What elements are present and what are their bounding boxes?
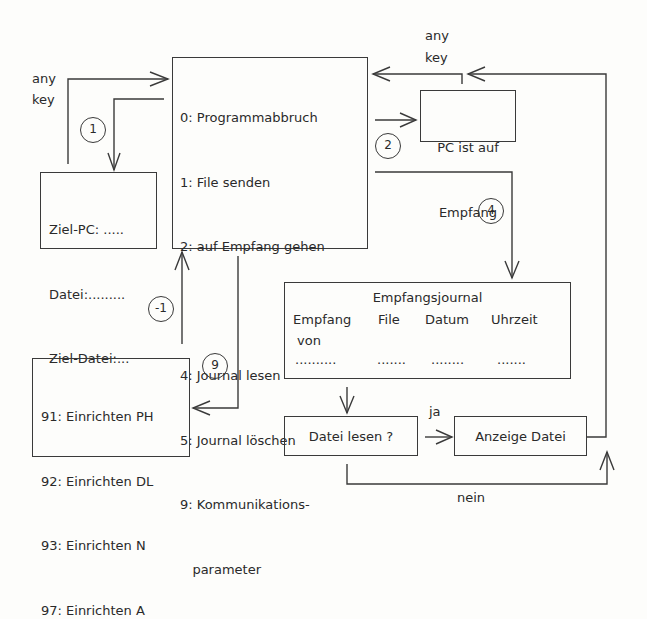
setup-item-a[interactable]: 97: Einrichten A	[41, 600, 154, 619]
any-key-right-label-1: any	[425, 28, 449, 44]
journal-header-von: von	[297, 333, 321, 349]
menu-item-send-file[interactable]: 1: File senden	[180, 172, 325, 194]
step-circle-minus-1: -1	[148, 296, 174, 322]
journal-header-date: Datum	[425, 312, 469, 328]
target-pc-field[interactable]: Ziel-PC: .....	[49, 219, 129, 241]
journal-dots-time: .......	[497, 352, 526, 368]
setup-item-n[interactable]: 93: Einrichten N	[41, 535, 154, 557]
menu-item-comm-params[interactable]: 9: Kommunikations-	[180, 494, 325, 516]
menu-item-receive[interactable]: 2: auf Empfang gehen	[180, 236, 325, 258]
setup-item-dl[interactable]: 92: Einrichten DL	[41, 471, 154, 493]
any-key-right-label-2: key	[425, 50, 448, 66]
setup-menu-list: 91: Einrichten PH 92: Einrichten DL 93: …	[41, 363, 154, 619]
read-file-label: Datei lesen ?	[284, 429, 418, 445]
yes-label: ja	[429, 404, 441, 420]
no-label: nein	[457, 490, 485, 506]
step-circle-1: 1	[80, 117, 106, 143]
journal-title: Empfangsjournal	[284, 290, 571, 306]
receive-line-1: PC ist auf	[420, 137, 516, 159]
receive-status-text: PC ist auf Empfang	[420, 94, 516, 245]
step-circle-2: 2	[375, 133, 401, 159]
step-circle-4: 4	[478, 198, 504, 224]
journal-dots-from: ..........	[295, 352, 336, 368]
journal-header-file: File	[378, 312, 400, 328]
journal-dots-date: ........	[431, 352, 464, 368]
any-key-left-label-2: key	[32, 92, 55, 108]
file-field[interactable]: Datei:.........	[49, 284, 129, 306]
step-circle-9: 9	[202, 353, 228, 379]
journal-header-from: Empfang	[293, 312, 351, 328]
setup-item-ph[interactable]: 91: Einrichten PH	[41, 406, 154, 428]
journal-header-time: Uhrzeit	[491, 312, 538, 328]
display-file-label: Anzeige Datei	[454, 429, 587, 445]
journal-dots-file: .......	[377, 352, 406, 368]
menu-item-comm-params-cont: parameter	[180, 559, 325, 581]
any-key-left-label-1: any	[32, 71, 56, 87]
menu-item-program-exit[interactable]: 0: Programmabbruch	[180, 107, 325, 129]
